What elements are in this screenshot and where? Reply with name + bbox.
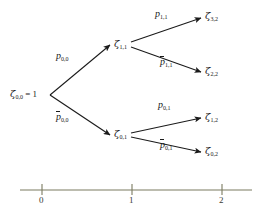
- node-down-subscript: 0,1: [119, 134, 127, 140]
- node-label-ud: ζ2,2: [205, 66, 218, 76]
- node-ud-subscript: 2,2: [210, 71, 218, 77]
- node-label-root: ζ0,0 = 1: [10, 89, 37, 99]
- binomial-tree-figure: ζ0,0 = 1 ζ1,1 ζ0,1 ζ3,2 ζ2,2 ζ1,2 ζ0,2 p…: [0, 0, 269, 215]
- node-label-du: ζ1,2: [205, 112, 218, 122]
- prob-up-ud-subscript: 1,1: [165, 62, 173, 68]
- time-axis: [20, 184, 252, 195]
- node-root-suffix: = 1: [23, 89, 37, 99]
- node-root-subscript: 0,0: [15, 94, 23, 100]
- edge-label-up-ud: p1,1: [160, 57, 173, 67]
- edge-down-du: [131, 118, 201, 133]
- prob-root-down-subscript: 0,0: [61, 117, 69, 123]
- edge-label-down-dd: p0,1: [160, 140, 173, 150]
- node-uu-subscript: 3,2: [210, 16, 218, 22]
- edge-label-down-du: p0,1: [158, 100, 171, 110]
- prob-down-du-subscript: 0,1: [163, 105, 171, 111]
- node-label-up: ζ1,1: [114, 39, 127, 49]
- edge-label-root-up: p0,0: [56, 51, 69, 61]
- node-label-dd: ζ0,2: [205, 146, 218, 156]
- axis-tick-label-1: 1: [129, 196, 134, 205]
- node-dd-subscript: 0,2: [210, 151, 218, 157]
- tree-branches-svg: [0, 0, 269, 215]
- node-label-uu: ζ3,2: [205, 11, 218, 21]
- axis-tick-label-2: 2: [219, 196, 224, 205]
- node-label-down: ζ0,1: [114, 129, 127, 139]
- edge-up-uu: [131, 18, 201, 42]
- prob-root-up-subscript: 0,0: [61, 56, 69, 62]
- edge-label-root-down: p0,0: [56, 112, 69, 122]
- prob-up-uu-subscript: 1,1: [160, 14, 168, 20]
- axis-tick-label-0: 0: [39, 196, 44, 205]
- node-up-subscript: 1,1: [119, 44, 127, 50]
- edge-label-up-uu: p1,1: [155, 9, 168, 19]
- prob-down-dd-subscript: 0,1: [165, 145, 173, 151]
- node-du-subscript: 1,2: [210, 117, 218, 123]
